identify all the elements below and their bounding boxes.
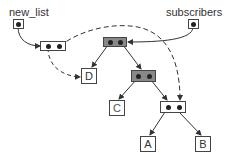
edge-root-to-d (92, 45, 108, 67)
edge-cons-to-d (48, 48, 80, 77)
edge-mid-to-c (119, 80, 136, 99)
left-pointer-dot (166, 105, 171, 110)
subscribers-pointer-box (188, 19, 199, 29)
left-pointer-dot (108, 40, 113, 45)
edge-root-to-mid (123, 45, 141, 69)
leaf-b: B (195, 136, 211, 152)
root-node (103, 37, 127, 47)
subscribers-label: subscribers (166, 6, 222, 18)
right-pointer-dot (147, 74, 152, 79)
right-pointer-dot (118, 40, 123, 45)
left-pointer-dot (136, 74, 141, 79)
new-list-label: new_list (9, 6, 49, 18)
edge-pair-to-b (179, 112, 201, 135)
pointer-dot (16, 22, 21, 27)
leaf-a: A (140, 136, 156, 152)
edge-pair-to-a (150, 112, 165, 135)
edge-newlist-to-cons (18, 27, 40, 46)
edge-subscribers-to-root (128, 27, 193, 42)
right-pointer-dot (177, 105, 182, 110)
cons-cell-node (40, 41, 66, 51)
left-pointer-dot (46, 44, 51, 49)
pointer-dot (191, 22, 196, 27)
middle-node (131, 70, 156, 82)
right-pointer-dot (57, 44, 62, 49)
edge-mid-to-pair (151, 80, 167, 100)
new-list-pointer-box (13, 19, 24, 29)
leaf-d: D (81, 68, 97, 84)
pair-ab-node (160, 101, 186, 113)
leaf-c: C (109, 100, 125, 116)
